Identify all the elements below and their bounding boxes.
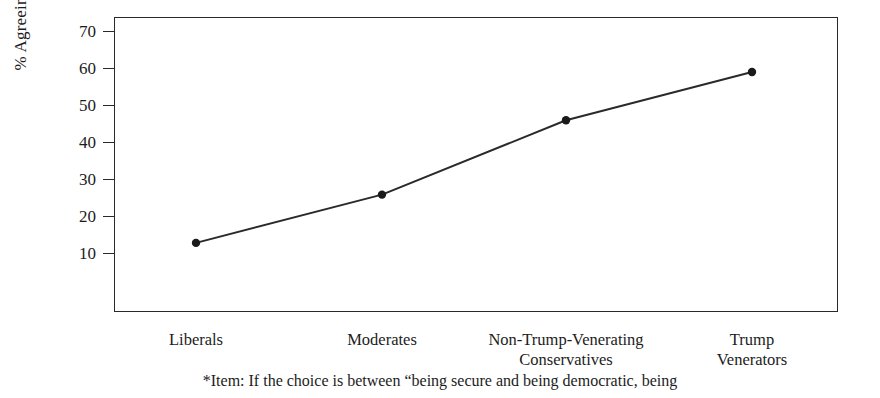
plot-area [114, 17, 838, 312]
y-axis-tick-mark [103, 105, 114, 106]
y-axis-tick-30: 30 [22, 170, 114, 190]
y-axis-tick-50: 50 [22, 96, 114, 116]
y-axis-tick-70: 70 [22, 22, 114, 42]
y-axis-tick-label-70: 70 [36, 22, 96, 42]
y-axis-tick-60: 60 [22, 59, 114, 79]
x-axis-label-non-trump-venerating-conservatives: Non-Trump-Venerating Conservatives [446, 330, 686, 370]
y-axis-title: % Agreeing [11, 0, 37, 104]
y-axis-tick-20: 20 [22, 207, 114, 227]
x-axis-label-liberals: Liberals [121, 330, 271, 350]
y-axis-tick-mark [103, 216, 114, 217]
x-axis-label-moderates: Moderates [307, 330, 457, 350]
y-axis-tick-label-20: 20 [36, 207, 96, 227]
y-axis-tick-mark [103, 31, 114, 32]
y-axis-tick-mark [103, 68, 114, 69]
y-axis-tick-label-30: 30 [36, 170, 96, 190]
y-axis-tick-label-60: 60 [36, 59, 96, 79]
figure-container: % Agreeing 70 60 50 40 30 20 10 Liberals… [0, 0, 880, 398]
y-axis-tick-label-10: 10 [36, 244, 96, 264]
y-axis-tick-10: 10 [22, 244, 114, 264]
y-axis-tick-mark [103, 253, 114, 254]
y-axis-tick-label-50: 50 [36, 96, 96, 116]
y-axis-tick-mark [103, 142, 114, 143]
y-axis-tick-label-40: 40 [36, 133, 96, 153]
y-axis-tick-mark [103, 179, 114, 180]
figure-footnote: *Item: If the choice is between “being s… [0, 371, 880, 391]
y-axis-tick-40: 40 [22, 133, 114, 153]
x-axis-label-trump-venerators: Trump Venerators [677, 330, 827, 370]
